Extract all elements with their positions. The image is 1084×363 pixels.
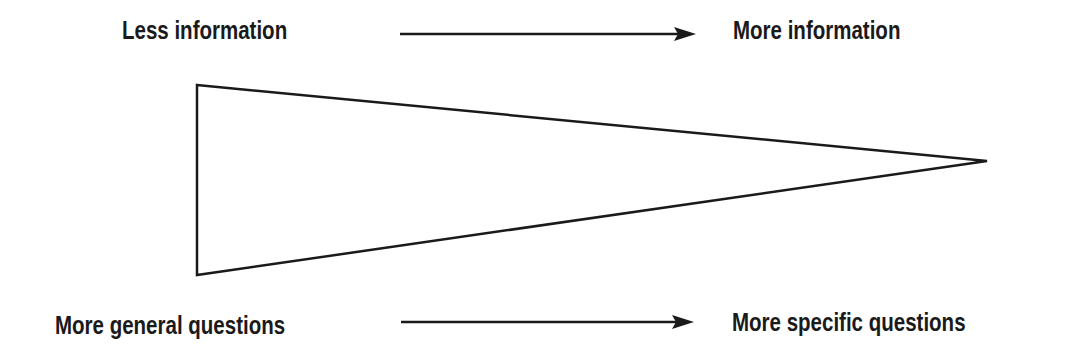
top-arrow-icon	[400, 27, 696, 41]
funnel-triangle	[197, 85, 987, 275]
bottom-arrow-icon	[401, 315, 694, 329]
diagram-canvas	[0, 0, 1084, 363]
